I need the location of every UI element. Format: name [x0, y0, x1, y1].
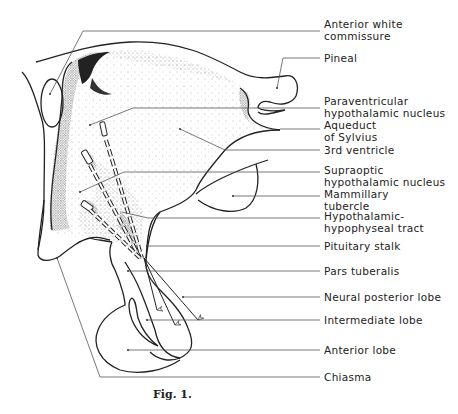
label-aqueduct-of-sylvius: Aqueduct of Sylvius [324, 119, 378, 143]
label-mammillary-tubercle: Mammillary tubercle [324, 188, 389, 212]
label-third-ventricle: 3rd ventricle [324, 144, 395, 156]
label-paraventricular-nucleus: Paraventricular hypothalamic nucleus [324, 95, 445, 119]
figure-caption: Fig. 1. [153, 388, 192, 401]
label-anterior-lobe: Anterior lobe [324, 344, 396, 356]
secretion-arrows [144, 258, 198, 325]
label-chiasma: Chiasma [324, 371, 372, 383]
label-pineal: Pineal [324, 52, 357, 64]
pineal-outline [258, 76, 297, 108]
label-hypothalamic-hypophyseal-tract: Hypothalamic- hypophyseal tract [324, 210, 424, 234]
label-intermediate-lobe: Intermediate lobe [324, 314, 423, 326]
label-anterior-white-commissure: Anterior white commissure [324, 18, 403, 42]
label-pars-tuberalis: Pars tuberalis [324, 265, 400, 277]
label-neural-posterior-lobe: Neural posterior lobe [324, 291, 441, 303]
label-pituitary-stalk: Pituitary stalk [324, 240, 401, 252]
label-supraoptic-nucleus: Supraoptic hypothalamic nucleus [324, 164, 445, 188]
